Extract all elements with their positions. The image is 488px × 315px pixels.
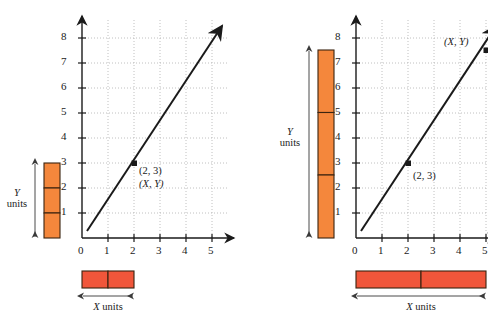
- y-tick-label-2: 2: [61, 181, 67, 193]
- y-tick-label-7: 7: [335, 56, 341, 68]
- x-tick-label-2: 2: [130, 245, 136, 257]
- x-units-bar-right: [356, 271, 486, 288]
- y-tick-label-8: 8: [61, 31, 67, 43]
- x-units-bar-left: [82, 271, 134, 288]
- y-tick-label-2: 2: [335, 181, 341, 193]
- y-tick-label-5: 5: [335, 106, 341, 118]
- x-units-word-left: units: [102, 301, 122, 312]
- point-label-coords-right: (2, 3): [413, 170, 436, 181]
- x-tick-label-0: 0: [352, 245, 358, 257]
- x-units-label-left: X units: [83, 301, 133, 312]
- data-point-2-3-left: [132, 161, 138, 167]
- x-units-variable-left: X: [93, 301, 99, 312]
- data-line-right: [361, 26, 488, 231]
- x-tick-label-3: 3: [156, 245, 162, 257]
- y-tick-label-4: 4: [335, 131, 341, 143]
- x-tick-label-3: 3: [430, 245, 436, 257]
- point-label-variables-right: (X, Y): [444, 36, 469, 47]
- y-units-bar-right: [318, 50, 334, 238]
- x-tick-label-4: 4: [456, 245, 462, 257]
- y-tick-label-6: 6: [335, 81, 341, 93]
- x-units-word-right: units: [415, 301, 435, 312]
- y-units-word-right: units: [280, 137, 300, 148]
- grid-horizontal-lines: [356, 38, 488, 213]
- y-tick-label-1: 1: [61, 206, 67, 218]
- grid-vertical-lines: [108, 20, 212, 238]
- chart-panel-left: 8 7 6 5 4 3 2 1 0 1 2 3 4 5 (2, 3) (X, Y…: [0, 0, 241, 315]
- chart-svg-left: [0, 0, 241, 315]
- y-tick-label-1: 1: [335, 206, 341, 218]
- y-units-variable-left: Y: [14, 187, 20, 198]
- y-units-variable-right: Y: [287, 126, 293, 137]
- point-label-coords-left: (2, 3): [139, 165, 162, 176]
- x-units-label-right: X units: [396, 301, 446, 312]
- x-tick-label-2: 2: [404, 245, 410, 257]
- y-tick-label-3: 3: [61, 156, 67, 168]
- y-tick-label-5: 5: [61, 106, 67, 118]
- y-tick-label-3: 3: [335, 156, 341, 168]
- y-units-bar-left: [44, 163, 60, 238]
- data-line-left: [87, 26, 222, 231]
- y-tick-label-8: 8: [335, 31, 341, 43]
- data-point-5-7p5-right: [484, 48, 488, 54]
- point-label-var-y-right: , Y): [454, 36, 469, 47]
- chart-svg-right: [241, 0, 482, 315]
- y-tick-label-7: 7: [61, 56, 67, 68]
- x-tick-label-1: 1: [104, 245, 110, 257]
- x-tick-label-5: 5: [482, 245, 488, 257]
- x-tick-label-5: 5: [208, 245, 214, 257]
- x-units-variable-right: X: [406, 301, 412, 312]
- y-tick-label-6: 6: [61, 81, 67, 93]
- grid-vertical-lines: [382, 20, 486, 238]
- y-tick-label-4: 4: [61, 131, 67, 143]
- point-label-var-y-left: , Y): [149, 178, 164, 189]
- y-units-word-left: units: [7, 198, 27, 209]
- data-point-2-3-right: [406, 161, 412, 167]
- x-tick-label-1: 1: [378, 245, 384, 257]
- chart-panel-right: 8 7 6 5 4 3 2 1 0 1 2 3 4 5 (2, 3) (X, Y…: [241, 0, 482, 315]
- x-tick-label-4: 4: [182, 245, 188, 257]
- point-label-variables-left: (X, Y): [139, 178, 164, 189]
- x-tick-label-0: 0: [78, 245, 84, 257]
- y-units-label-right: Y units: [275, 126, 305, 148]
- point-label-var-x-left: (X: [139, 178, 149, 189]
- point-label-var-x-right: (X: [444, 36, 454, 47]
- y-units-label-left: Y units: [2, 187, 32, 209]
